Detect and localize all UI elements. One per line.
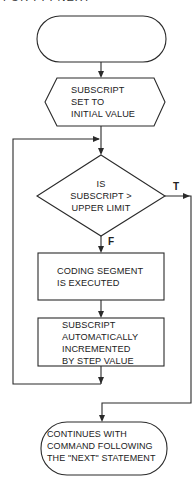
increment-line-4: BY STEP VALUE	[62, 355, 138, 367]
increment-line-2: AUTOMATICALLY	[62, 331, 138, 343]
start-terminator	[37, 16, 166, 62]
init-line-2: SET TO	[71, 96, 135, 108]
increment-line-1: SUBSCRIPT	[62, 319, 138, 331]
arrow-head-icon	[98, 377, 104, 384]
flowchart-canvas	[0, 0, 195, 478]
increment-label: SUBSCRIPT AUTOMATICALLY INCREMENTED BY S…	[62, 319, 138, 367]
false-label: F	[108, 236, 114, 247]
init-label: SUBSCRIPT SET TO INITIAL VALUE	[71, 84, 135, 120]
arrow-head-icon	[99, 415, 105, 422]
increment-line-3: INCREMENTED	[62, 343, 138, 355]
arrow-head-icon	[98, 311, 104, 318]
arrow-head-icon	[98, 71, 104, 78]
end-line-3: THE "NEXT" STATEMENT	[47, 452, 156, 464]
true-branch-connector	[102, 196, 191, 420]
init-line-1: SUBSCRIPT	[71, 84, 135, 96]
true-label: T	[173, 181, 179, 192]
end-line-1: CONTINUES WITH	[47, 428, 156, 440]
init-line-3: INITIAL VALUE	[71, 108, 135, 120]
decision-line-2: SUBSCRIPT >	[61, 190, 141, 202]
decision-line-3: UPPER LIMIT	[61, 202, 141, 214]
execute-label: CODING SEGMENT IS EXECUTED	[57, 265, 143, 289]
decision-label: IS SUBSCRIPT > UPPER LIMIT	[61, 178, 141, 214]
execute-line-1: CODING SEGMENT	[57, 265, 143, 277]
decision-line-1: IS	[61, 178, 141, 190]
execute-line-2: IS EXECUTED	[57, 277, 143, 289]
arrow-head-icon	[98, 246, 104, 253]
arrow-head-icon	[98, 148, 104, 155]
arrow-head-icon	[93, 136, 100, 142]
end-line-2: COMMAND FOLLOWING	[47, 440, 156, 452]
arrow-head-icon	[183, 193, 190, 199]
end-label: CONTINUES WITH COMMAND FOLLOWING THE "NE…	[47, 428, 156, 464]
